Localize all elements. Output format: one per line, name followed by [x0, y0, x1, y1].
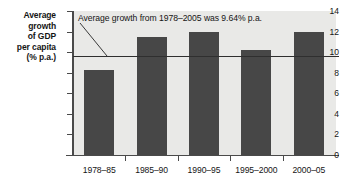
y-tick-mark [67, 114, 72, 115]
y-axis-title-line-4: per capita [2, 42, 56, 53]
bar [189, 32, 219, 155]
y-axis-title-line-1: Average [2, 10, 56, 21]
y-tick-label: 14 [281, 6, 347, 16]
y-tick-mark [67, 155, 72, 156]
x-tick-label: 1995–2000 [235, 165, 277, 175]
bar [84, 70, 114, 155]
x-tick-label: 1978–85 [83, 165, 116, 175]
gdp-growth-bar-chart: Average growth of GDP per capita (% p.a.… [0, 0, 347, 187]
y-tick-mark [67, 93, 72, 94]
x-tick-label: 1985–90 [135, 165, 168, 175]
x-tick-label: 2000–05 [292, 165, 325, 175]
average-growth-line [73, 56, 339, 58]
y-axis-title-line-3: of GDP [2, 31, 56, 42]
y-tick-mark [67, 73, 72, 74]
x-tick-mark [125, 156, 126, 161]
x-tick-mark [230, 156, 231, 161]
average-growth-annotation: Average growth from 1978–2005 was 9.64% … [78, 13, 262, 23]
bar [137, 37, 167, 155]
y-tick-mark [67, 32, 72, 33]
y-tick-mark [67, 11, 72, 12]
y-axis-title-line-5: (% p.a.) [2, 52, 56, 63]
y-axis-line [72, 11, 73, 156]
x-tick-mark [178, 156, 179, 161]
y-tick-mark [67, 52, 72, 53]
bar [241, 50, 271, 155]
x-tick-label: 1990–95 [188, 165, 221, 175]
bar [294, 32, 324, 155]
y-tick-mark [67, 134, 72, 135]
x-tick-mark [283, 156, 284, 161]
y-axis-title: Average growth of GDP per capita (% p.a.… [2, 10, 56, 63]
y-axis-title-line-2: growth [2, 21, 56, 32]
